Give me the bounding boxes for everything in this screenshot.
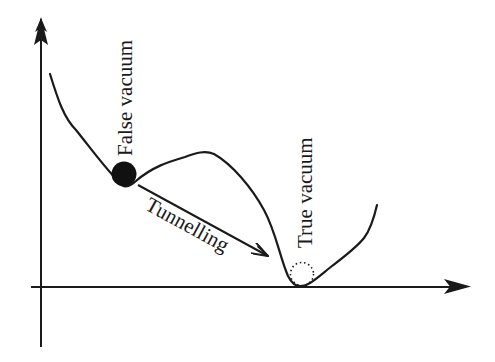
y-axis	[34, 17, 48, 347]
true-vacuum-label: True vacuum	[293, 137, 317, 248]
potential-curve	[50, 74, 377, 286]
false-vacuum-ball	[112, 162, 137, 187]
true-vacuum-ball	[291, 263, 314, 286]
tunnelling-label: Tunnelling	[142, 192, 234, 257]
x-axis	[31, 279, 471, 294]
vacuum-decay-diagram: False vacuum True vacuum Tunnelling	[0, 0, 495, 362]
false-vacuum-label: False vacuum	[113, 40, 137, 156]
